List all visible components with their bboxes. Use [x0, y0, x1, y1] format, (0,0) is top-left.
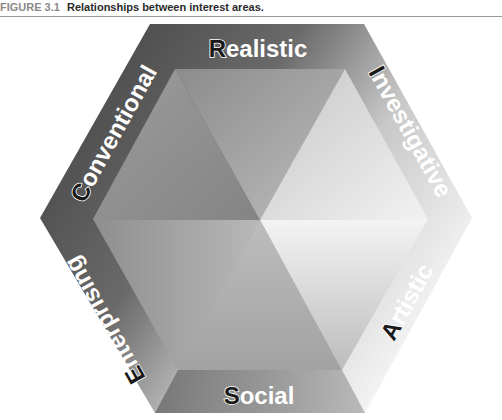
label-realistic: Realistic	[209, 35, 308, 62]
riasec-hexagon: Realistic Investigative Artistic Social …	[0, 0, 502, 420]
label-social: Social	[224, 382, 295, 409]
